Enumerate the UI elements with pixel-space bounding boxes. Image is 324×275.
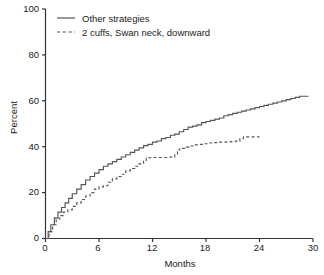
chart-plot-area (0, 0, 324, 275)
x-tick-label-6: 6 (86, 243, 110, 253)
y-tick-label-20: 20 (13, 187, 39, 197)
x-tick-label-18: 18 (193, 243, 217, 253)
chart-legend: Other strategies 2 cuffs, Swan neck, dow… (56, 11, 210, 39)
x-tick-label-30: 30 (301, 243, 324, 253)
legend-line-dashed-icon (56, 27, 76, 37)
legend-line-solid-icon (56, 13, 76, 23)
y-axis-title: Percent (8, 88, 19, 148)
x-tick-label-0: 0 (33, 243, 57, 253)
legend-label-0: Other strategies (82, 13, 150, 24)
axis-lines (42, 9, 313, 242)
y-tick-label-80: 80 (13, 50, 39, 60)
legend-item-other-strategies: Other strategies (56, 11, 210, 25)
x-axis-title: Months (135, 258, 225, 269)
chart-container: 0 20 40 60 80 100 0 6 12 18 24 30 Percen… (0, 0, 324, 275)
y-tick-label-100: 100 (13, 4, 39, 14)
x-tick-label-12: 12 (140, 243, 164, 253)
legend-label-1: 2 cuffs, Swan neck, downward (82, 27, 210, 38)
series-line-1 (46, 137, 260, 239)
y-tick-label-0: 0 (13, 233, 39, 243)
series-line-0 (46, 96, 309, 238)
legend-item-2-cuffs-swan-neck-downward: 2 cuffs, Swan neck, downward (56, 25, 210, 39)
data-series-group (46, 96, 309, 238)
x-tick-label-24: 24 (247, 243, 271, 253)
